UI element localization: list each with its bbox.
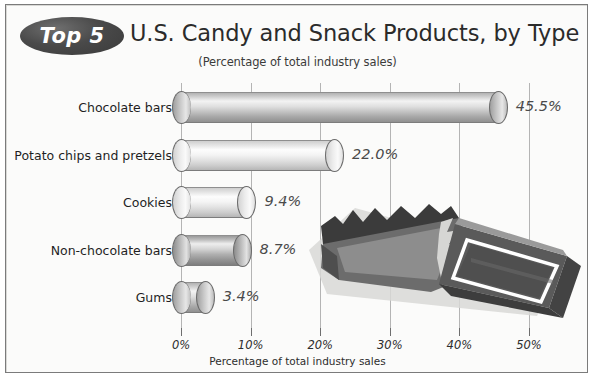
bar <box>181 140 334 171</box>
x-tick-label: 20% <box>290 338 350 352</box>
bar-cap-right <box>325 139 344 172</box>
tick-mark <box>529 328 530 336</box>
bar <box>181 92 498 123</box>
bar-cap-left <box>172 91 191 124</box>
category-label: Non-chocolate bars <box>0 243 172 258</box>
category-label: Chocolate bars <box>0 100 172 115</box>
x-tick-label: 30% <box>360 338 420 352</box>
plot-area: 0%10%20%30%40%50% Chocolate bars45.5%Pot… <box>6 5 589 374</box>
bar-value-label: 45.5% <box>516 98 562 114</box>
tick-mark <box>320 328 321 336</box>
tick-mark <box>251 328 252 336</box>
bar-cap-left <box>172 186 191 219</box>
category-label: Cookies <box>0 195 172 210</box>
chart-frame: Top 5 U.S. Candy and Snack Products, by … <box>5 4 588 373</box>
bar <box>181 282 205 313</box>
bar-cap-right <box>233 234 252 267</box>
bar <box>181 235 242 266</box>
bar-value-label: 3.4% <box>223 288 260 304</box>
tick-mark <box>459 328 460 336</box>
bar-value-label: 22.0% <box>352 146 398 162</box>
x-tick-label: 40% <box>429 338 489 352</box>
bar-cap-right <box>237 186 256 219</box>
bar-value-label: 8.7% <box>260 241 297 257</box>
bar-cap-right <box>196 281 215 314</box>
candy-bar-icon <box>291 188 591 338</box>
tick-mark <box>390 328 391 336</box>
x-tick-label: 10% <box>221 338 281 352</box>
category-label: Gums <box>0 290 172 305</box>
category-label: Potato chips and pretzels <box>0 148 172 163</box>
x-axis-title: Percentage of total industry sales <box>6 355 589 367</box>
bar-cap-left <box>172 234 191 267</box>
bar-cap-left <box>172 139 191 172</box>
bar-cap-right <box>489 91 508 124</box>
x-tick-label: 0% <box>151 338 211 352</box>
x-tick-label: 50% <box>499 338 559 352</box>
bar <box>181 187 246 218</box>
bar-body <box>181 140 334 171</box>
bar-cap-left <box>172 281 191 314</box>
bar-value-label: 9.4% <box>264 193 301 209</box>
gridline <box>529 83 530 328</box>
bar-body <box>181 92 498 123</box>
tick-mark <box>181 328 182 336</box>
